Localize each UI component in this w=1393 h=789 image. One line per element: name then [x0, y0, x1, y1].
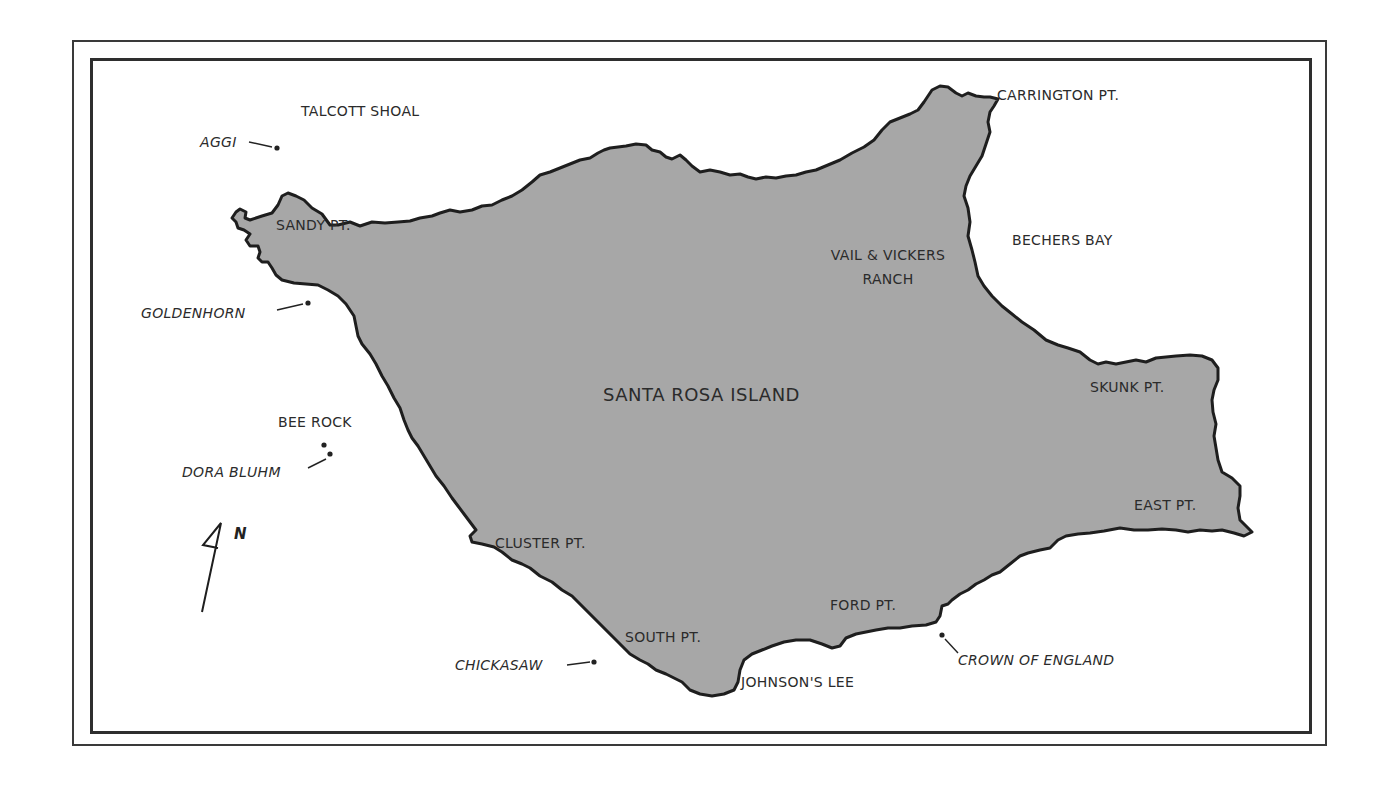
wreck-marker-dora-bluhm: [308, 459, 326, 468]
wreck-marker-chickasaw: [567, 659, 597, 665]
label-wreck-dora-bluhm: DORA BLUHM: [182, 464, 281, 480]
label-bee-rock: BEE ROCK: [278, 414, 352, 430]
north-arrow-icon: [202, 523, 221, 612]
label-wreck-crown-of-england: CROWN OF ENGLAND: [958, 652, 1114, 668]
label-south-pt: SOUTH PT.: [625, 629, 701, 645]
label-wreck-aggi: AGGI: [200, 134, 237, 150]
label-bechers-bay: BECHERS BAY: [1012, 232, 1113, 248]
wreck-marker-crown-of-england: [939, 632, 958, 653]
label-vail-vickers-ranch-line1: VAIL & VICKERS: [808, 247, 968, 263]
wreck-marker-aggi: [249, 142, 280, 151]
label-sandy-pt: SANDY PT.: [276, 217, 351, 233]
label-skunk-pt: SKUNK PT.: [1090, 379, 1165, 395]
wreck-marker-goldenhorn: [277, 300, 311, 310]
wreck-marker-bee-rock: [321, 442, 332, 456]
label-santa-rosa-island: SANTA ROSA ISLAND: [603, 387, 800, 403]
label-johnsons-lee: JOHNSON'S LEE: [741, 674, 854, 690]
label-east-pt: EAST PT.: [1134, 497, 1197, 513]
label-wreck-goldenhorn: GOLDENHORN: [141, 305, 246, 321]
label-ford-pt: FORD PT.: [830, 597, 896, 613]
label-cluster-pt: CLUSTER PT.: [495, 535, 586, 551]
north-arrow-label: N: [234, 525, 247, 543]
label-talcott-shoal: TALCOTT SHOAL: [301, 103, 419, 119]
label-vail-vickers-ranch-line2: RANCH: [808, 271, 968, 287]
label-carrington-pt: CARRINGTON PT.: [997, 87, 1119, 103]
label-wreck-chickasaw: CHICKASAW: [455, 657, 543, 673]
